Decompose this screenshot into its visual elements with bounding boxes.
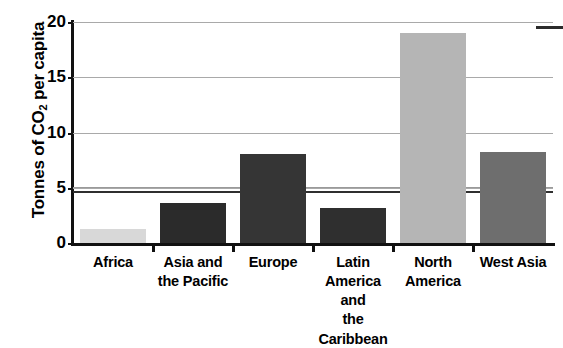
x-tick-mark-3: [392, 246, 395, 252]
bar-asia-and-the-pacific: [160, 203, 226, 243]
y-tick-label-10: 10: [26, 124, 66, 141]
bar-africa: [80, 229, 146, 243]
x-axis-label-africa: Africa: [67, 253, 159, 272]
gridline-10: [73, 133, 553, 134]
x-axis-label-line: and: [307, 291, 399, 310]
x-axis-label-line: America: [387, 272, 479, 291]
x-axis-label-line: Asia and: [147, 253, 239, 272]
y-tick-mark-0: [68, 243, 73, 245]
y-tick-label-20: 20: [26, 13, 66, 30]
x-axis-label-asia-and-the-pacific: Asia andthe Pacific: [147, 253, 239, 291]
bar-west-asia: [480, 152, 546, 243]
y-axis-title-rest: per capita: [29, 22, 48, 105]
x-axis-label-europe: Europe: [227, 253, 319, 272]
y-tick-label-0: 0: [26, 234, 66, 251]
bar-europe: [240, 154, 306, 244]
cropped-title-remnant: [150, 0, 430, 5]
x-axis-label-west-asia: West Asia: [467, 253, 559, 272]
y-tick-label-15: 15: [26, 68, 66, 85]
x-tick-mark-0: [152, 246, 155, 252]
gridline-20: [73, 22, 553, 23]
x-tick-mark-4: [472, 246, 475, 252]
bar-north-america: [400, 33, 466, 243]
x-axis-label-line: North: [387, 253, 479, 272]
y-axis-title-subscript: 2: [37, 105, 49, 111]
x-axis-label-line: the Caribbean: [307, 310, 399, 348]
legend-line-marker: [536, 26, 563, 29]
x-axis-label-line: the Pacific: [147, 272, 239, 291]
x-tick-mark-2: [312, 246, 315, 252]
plot-area: [73, 22, 553, 243]
y-tick-label-5: 5: [26, 179, 66, 196]
x-axis-label-line: Europe: [227, 253, 319, 272]
x-axis-label-line: Latin America: [307, 253, 399, 291]
x-axis-label-north-america: NorthAmerica: [387, 253, 479, 291]
bar-latin-america-and-the-caribbean: [320, 208, 386, 243]
x-axis-label-line: West Asia: [467, 253, 559, 272]
x-axis-label-line: Africa: [67, 253, 159, 272]
y-axis-title: Tonnes of CO2 per capita: [29, 0, 49, 240]
x-axis-label-latin-america-and-the-caribbean: Latin Americaandthe Caribbean: [307, 253, 399, 348]
gridline-15: [73, 77, 553, 78]
x-tick-mark-1: [232, 246, 235, 252]
